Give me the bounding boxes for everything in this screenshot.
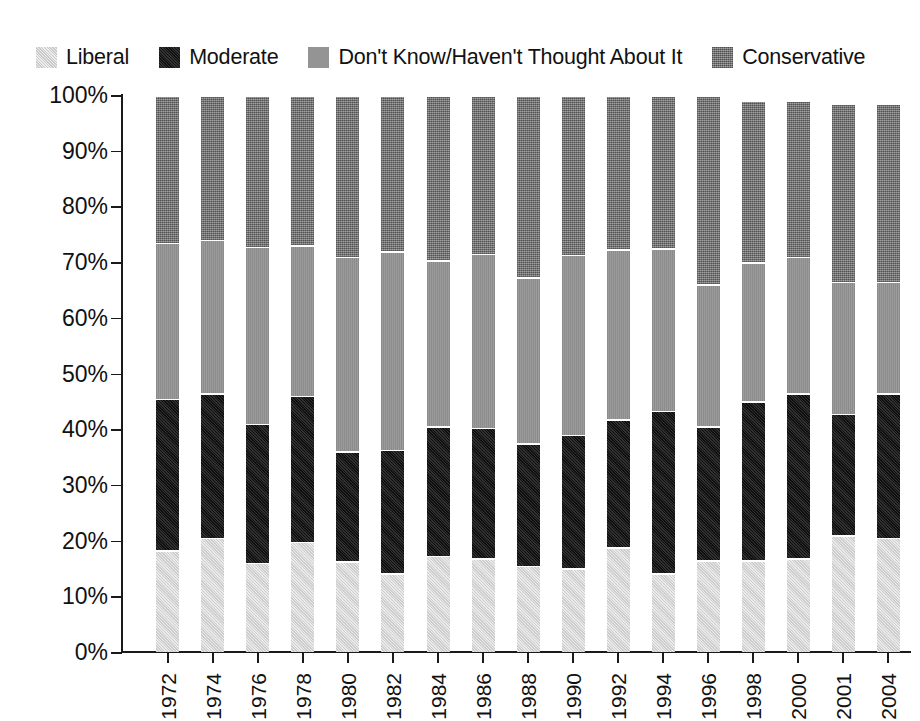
- bar-1974[interactable]: [201, 95, 224, 652]
- bar-1978[interactable]: [291, 95, 314, 652]
- x-axis-tick-mark: [842, 652, 844, 663]
- x-axis-tick-mark: [482, 652, 484, 663]
- x-axis-tick-label: 1978: [292, 673, 316, 720]
- bar-segment-moderate: [291, 397, 314, 541]
- x-axis-tick-mark: [437, 652, 439, 663]
- x-axis-tick-label: 1976: [247, 673, 271, 720]
- stacked-bar-chart: LiberalModerateDon't Know/Haven't Though…: [0, 0, 920, 721]
- bar-1986[interactable]: [472, 95, 495, 652]
- y-axis-tick-label: 50%: [62, 361, 108, 387]
- x-axis-tick-label: 1990: [562, 673, 586, 720]
- bar-segment-don-t-know-haven-t-thought-about-it: [562, 256, 585, 434]
- y-axis-tick-mark: [111, 262, 122, 264]
- legend-item-liberal[interactable]: Liberal: [36, 45, 129, 70]
- x-axis-tick-mark: [212, 652, 214, 663]
- legend-item-label: Liberal: [66, 45, 129, 70]
- bar-segment-liberal: [877, 539, 900, 652]
- x-axis-tick-label: 1992: [607, 673, 631, 720]
- x-axis-tick-mark: [527, 652, 529, 663]
- bar-1988[interactable]: [517, 95, 540, 652]
- bar-segment-don-t-know-haven-t-thought-about-it: [787, 258, 810, 393]
- y-axis-tick-label: 10%: [62, 583, 108, 609]
- bar-segment-liberal: [201, 539, 224, 652]
- bar-segment-conservative: [607, 97, 630, 250]
- bar-1982[interactable]: [381, 95, 404, 652]
- chart-legend: LiberalModerateDon't Know/Haven't Though…: [0, 40, 920, 74]
- bar-segment-moderate: [156, 400, 179, 550]
- y-axis-tick-label: 90%: [62, 138, 108, 164]
- bar-segment-conservative: [787, 102, 810, 256]
- legend-swatch-moderate-icon: [159, 47, 180, 68]
- bar-segment-don-t-know-haven-t-thought-about-it: [156, 244, 179, 398]
- plot-area: 0%10%20%30%40%50%60%70%80%90%100%1972197…: [122, 95, 912, 652]
- bar-segment-conservative: [381, 97, 404, 251]
- bar-segment-liberal: [832, 537, 855, 652]
- bar-1990[interactable]: [562, 95, 585, 652]
- legend-item-conservative[interactable]: Conservative: [712, 45, 865, 70]
- bar-segment-conservative: [201, 97, 224, 240]
- bar-segment-don-t-know-haven-t-thought-about-it: [697, 286, 720, 426]
- bar-segment-don-t-know-haven-t-thought-about-it: [291, 247, 314, 396]
- bar-segment-liberal: [472, 560, 495, 652]
- legend-item-label: Don't Know/Haven't Thought About It: [338, 45, 682, 70]
- x-axis-tick-label: 2004: [877, 673, 901, 720]
- bar-segment-conservative: [246, 97, 269, 247]
- bar-1996[interactable]: [697, 95, 720, 652]
- y-axis-tick-label: 20%: [62, 528, 108, 554]
- bar-segment-liberal: [246, 564, 269, 652]
- x-axis-tick-mark: [797, 652, 799, 663]
- bar-segment-liberal: [336, 563, 359, 652]
- bar-segment-conservative: [427, 97, 450, 261]
- bar-segment-liberal: [291, 543, 314, 652]
- y-axis-tick-label: 30%: [62, 472, 108, 498]
- y-axis-tick-label: 70%: [62, 249, 108, 275]
- y-axis-tick-mark: [111, 151, 122, 153]
- bar-segment-conservative: [291, 97, 314, 246]
- bar-segment-moderate: [201, 395, 224, 538]
- bar-segment-liberal: [697, 562, 720, 652]
- bar-1992[interactable]: [607, 95, 630, 652]
- bar-1984[interactable]: [427, 95, 450, 652]
- x-axis-tick-label: 1974: [202, 673, 226, 720]
- x-axis-tick-mark: [572, 652, 574, 663]
- bar-1994[interactable]: [652, 95, 675, 652]
- bar-segment-moderate: [562, 436, 585, 568]
- bar-segment-don-t-know-haven-t-thought-about-it: [517, 279, 540, 443]
- x-axis-tick-label: 1980: [337, 673, 361, 720]
- legend-item-dont-know[interactable]: Don't Know/Haven't Thought About It: [308, 45, 682, 70]
- bar-segment-moderate: [652, 412, 675, 572]
- bar-2004[interactable]: [877, 95, 900, 652]
- x-axis-tick-mark: [662, 652, 664, 663]
- y-axis-tick-mark: [111, 485, 122, 487]
- bar-segment-moderate: [427, 428, 450, 556]
- bar-segment-liberal: [652, 575, 675, 652]
- y-axis-tick-label: 0%: [75, 639, 108, 665]
- bar-segment-liberal: [156, 552, 179, 652]
- bar-segment-conservative: [562, 97, 585, 255]
- bar-2001[interactable]: [832, 95, 855, 652]
- y-axis-tick-mark: [111, 596, 122, 598]
- x-axis-tick-mark: [257, 652, 259, 663]
- bar-segment-conservative: [517, 97, 540, 278]
- x-axis-tick-label: 1996: [697, 673, 721, 720]
- legend-item-label: Conservative: [742, 45, 865, 70]
- y-axis-tick-mark: [111, 429, 122, 431]
- bar-segment-moderate: [697, 428, 720, 560]
- bar-segment-don-t-know-haven-t-thought-about-it: [201, 241, 224, 393]
- bar-segment-moderate: [787, 395, 810, 559]
- bar-1998[interactable]: [742, 95, 765, 652]
- bar-1972[interactable]: [156, 95, 179, 652]
- bar-segment-conservative: [336, 97, 359, 257]
- bar-1976[interactable]: [246, 95, 269, 652]
- legend-item-moderate[interactable]: Moderate: [159, 45, 278, 70]
- y-axis-tick-mark: [111, 374, 122, 376]
- bar-2000[interactable]: [787, 95, 810, 652]
- bar-1980[interactable]: [336, 95, 359, 652]
- bar-segment-moderate: [381, 451, 404, 572]
- bar-segment-don-t-know-haven-t-thought-about-it: [427, 262, 450, 426]
- bar-segment-liberal: [381, 575, 404, 652]
- x-axis-tick-mark: [392, 652, 394, 663]
- bar-segment-moderate: [877, 395, 900, 538]
- bar-segment-don-t-know-haven-t-thought-about-it: [832, 283, 855, 413]
- y-axis-tick-mark: [111, 206, 122, 208]
